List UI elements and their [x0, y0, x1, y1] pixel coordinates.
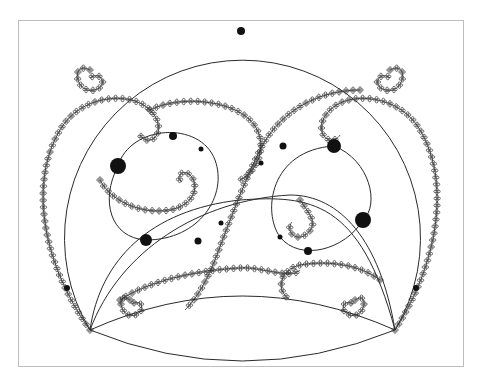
- limit-point-dot: [278, 235, 283, 240]
- lens-upper-arc: [90, 296, 395, 330]
- limit-point-dot: [280, 143, 287, 150]
- limit-point-dot: [413, 285, 419, 291]
- limit-point-dot: [219, 221, 224, 226]
- limit-point-dot: [199, 147, 204, 152]
- limit-point-dot: [140, 234, 152, 246]
- limit-point-dot: [110, 158, 126, 174]
- right-loop-arc: [272, 146, 371, 251]
- limit-point-dot: [355, 212, 371, 228]
- limit-point-dot: [304, 247, 312, 255]
- limit-point-dot: [195, 238, 202, 245]
- lens-lower-arc: [90, 330, 395, 361]
- limit-point-dot: [259, 161, 264, 166]
- limit-point-dot: [169, 132, 177, 140]
- limit-point-dot: [64, 285, 70, 291]
- crossing-arc-a: [90, 195, 395, 330]
- big-circle-arc: [65, 60, 421, 330]
- limit-point-dot: [237, 27, 245, 35]
- limit-point-dot: [327, 139, 341, 153]
- limit-set-diagram: [0, 0, 480, 387]
- limit-points: [64, 27, 419, 291]
